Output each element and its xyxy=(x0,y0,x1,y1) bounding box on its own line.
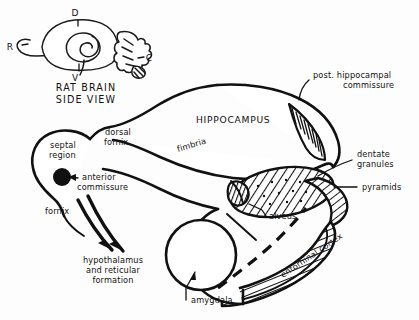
label-septal-region-line1: septal xyxy=(50,140,76,150)
label-post-hippocampal-commissure-line2: commissure xyxy=(343,80,394,90)
inset-caption-line1: RAT BRAIN xyxy=(56,82,116,93)
label-hypothalamus-line3: formation xyxy=(92,275,133,285)
label-hippocampus: HIPPOCAMPUS xyxy=(196,114,270,125)
label-anterior-commissure-line2: commissure xyxy=(77,182,128,192)
label-fornix: fornix xyxy=(45,206,69,216)
label-dorsal-fornix-line1: dorsal xyxy=(105,127,131,137)
label-amygdala: amygdala xyxy=(191,295,233,305)
alveus-region xyxy=(228,181,249,205)
label-hypothalamus-line1: hypothalamus xyxy=(83,255,143,265)
label-septal-region-line2: region xyxy=(49,150,76,160)
label-pyramids: pyramids xyxy=(362,182,401,192)
inset-caption-line2: SIDE VIEW xyxy=(56,94,116,105)
rat-hippocampus-diagram: D V R C RAT BRAIN SIDE VIEW xyxy=(0,0,419,320)
label-hypothalamus-line2: and reticular xyxy=(86,265,140,275)
label-anterior-commissure-line1: anterior xyxy=(82,172,116,182)
label-dentate-granules-line1: dentate xyxy=(357,149,390,159)
inset-label-dorsal: D xyxy=(72,8,79,18)
inset-rat-brain-side-view: D V R C RAT BRAIN SIDE VIEW xyxy=(7,8,152,105)
septal-region-ventral-stem xyxy=(64,216,84,236)
label-dentate-granules-line2: granules xyxy=(357,159,394,169)
amygdala-circle xyxy=(166,220,236,290)
label-dorsal-fornix-line2: fornix xyxy=(104,137,128,147)
inset-label-caudal: C xyxy=(146,53,152,63)
inset-label-rostral: R xyxy=(7,42,13,52)
label-alveus: alveus xyxy=(269,211,297,221)
label-post-hippocampal-commissure-line1: post. hippocampal xyxy=(313,70,391,80)
inset-cortex-dome xyxy=(42,20,118,71)
leader-post-hippocampal-commissure xyxy=(299,80,309,100)
figure-root: D V R C RAT BRAIN SIDE VIEW xyxy=(0,0,419,320)
